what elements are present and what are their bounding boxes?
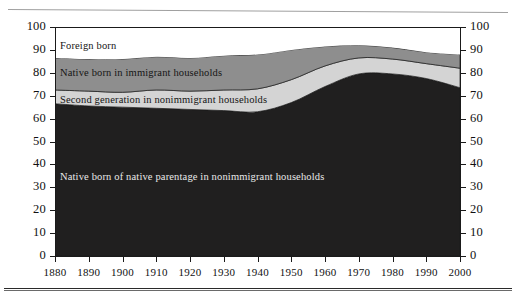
y-tick-right-0 bbox=[461, 256, 466, 257]
y-tick-left-90 bbox=[50, 50, 55, 51]
x-axis-label-1890: 1890 bbox=[77, 266, 100, 278]
y-tick-right-30 bbox=[461, 187, 466, 188]
x-tick-1940 bbox=[258, 257, 259, 262]
y-axis-label-right-100: 100 bbox=[470, 20, 489, 33]
y-tick-left-70 bbox=[50, 96, 55, 97]
y-axis-label-right-10: 10 bbox=[470, 226, 483, 239]
y-axis-label-right-40: 40 bbox=[470, 157, 483, 170]
y-tick-left-50 bbox=[50, 142, 55, 143]
figure: 1009080706050403020100 10090807060504030… bbox=[0, 0, 516, 296]
y-axis-label-left-0: 0 bbox=[12, 249, 46, 262]
x-axis-label-1910: 1910 bbox=[145, 266, 168, 278]
y-axis-label-right-50: 50 bbox=[470, 135, 483, 148]
y-axis-label-right-80: 80 bbox=[470, 66, 483, 79]
y-tick-right-80 bbox=[461, 73, 466, 74]
y-axis-label-left-20: 20 bbox=[12, 203, 46, 216]
band-label-2: Second generation in nonimmigrant househ… bbox=[60, 95, 267, 106]
band-label-3: Native born of native parentage in nonim… bbox=[60, 172, 324, 183]
x-tick-1960 bbox=[325, 257, 326, 262]
y-axis-label-right-70: 70 bbox=[470, 89, 483, 102]
y-axis-label-left-10: 10 bbox=[12, 226, 46, 239]
x-tick-1970 bbox=[359, 257, 360, 262]
y-tick-left-80 bbox=[50, 73, 55, 74]
area-series-group bbox=[55, 27, 460, 256]
x-tick-1900 bbox=[123, 257, 124, 262]
plot-top-border bbox=[55, 27, 461, 28]
top-divider-rule bbox=[8, 9, 508, 13]
x-tick-2000 bbox=[460, 257, 461, 262]
y-tick-right-50 bbox=[461, 142, 466, 143]
y-axis-label-left-80: 80 bbox=[12, 66, 46, 79]
band-label-0: Foreign born bbox=[60, 41, 116, 52]
y-axis-label-right-30: 30 bbox=[470, 180, 483, 193]
x-axis-label-1970: 1970 bbox=[347, 266, 370, 278]
y-axis-label-right-90: 90 bbox=[470, 43, 483, 56]
y-tick-left-20 bbox=[50, 210, 55, 211]
y-tick-right-70 bbox=[461, 96, 466, 97]
y-axis-label-right-60: 60 bbox=[470, 112, 483, 125]
x-axis-label-1990: 1990 bbox=[415, 266, 438, 278]
y-axis-label-right-0: 0 bbox=[470, 249, 476, 262]
x-axis-label-1950: 1950 bbox=[280, 266, 303, 278]
y-tick-right-10 bbox=[461, 233, 466, 234]
y-tick-left-40 bbox=[50, 164, 55, 165]
x-tick-1950 bbox=[291, 257, 292, 262]
bottom-divider-rule-secondary bbox=[4, 290, 512, 291]
y-axis-label-left-30: 30 bbox=[12, 180, 46, 193]
x-tick-1990 bbox=[426, 257, 427, 262]
x-axis-label-2000: 2000 bbox=[448, 266, 471, 278]
y-tick-right-20 bbox=[461, 210, 466, 211]
x-axis-label-1930: 1930 bbox=[212, 266, 235, 278]
y-axis-label-left-60: 60 bbox=[12, 112, 46, 125]
y-axis-label-left-40: 40 bbox=[12, 157, 46, 170]
x-tick-1880 bbox=[55, 257, 56, 262]
x-axis-label-1940: 1940 bbox=[246, 266, 269, 278]
y-axis-label-left-70: 70 bbox=[12, 89, 46, 102]
y-axis-label-right-20: 20 bbox=[470, 203, 483, 216]
x-axis-label-1960: 1960 bbox=[313, 266, 336, 278]
x-axis-label-1900: 1900 bbox=[111, 266, 134, 278]
x-axis-label-1920: 1920 bbox=[178, 266, 201, 278]
y-axis-label-left-50: 50 bbox=[12, 135, 46, 148]
y-axis-label-left-100: 100 bbox=[12, 20, 46, 33]
x-tick-1910 bbox=[156, 257, 157, 262]
y-tick-left-30 bbox=[50, 187, 55, 188]
y-tick-left-10 bbox=[50, 233, 55, 234]
x-axis-label-1880: 1880 bbox=[43, 266, 66, 278]
y-tick-left-60 bbox=[50, 119, 55, 120]
y-tick-right-100 bbox=[461, 27, 466, 28]
x-tick-1890 bbox=[89, 257, 90, 262]
x-tick-1920 bbox=[190, 257, 191, 262]
x-axis-label-1980: 1980 bbox=[381, 266, 404, 278]
stacked-area-plot bbox=[55, 27, 460, 256]
band-label-1: Native born in immigrant households bbox=[60, 68, 222, 79]
y-tick-left-100 bbox=[50, 27, 55, 28]
x-tick-1930 bbox=[224, 257, 225, 262]
y-tick-right-60 bbox=[461, 119, 466, 120]
y-axis-left-line bbox=[55, 27, 56, 257]
y-tick-right-40 bbox=[461, 164, 466, 165]
x-tick-1980 bbox=[393, 257, 394, 262]
y-tick-right-90 bbox=[461, 50, 466, 51]
bottom-divider-rule bbox=[4, 288, 512, 289]
y-axis-label-left-90: 90 bbox=[12, 43, 46, 56]
